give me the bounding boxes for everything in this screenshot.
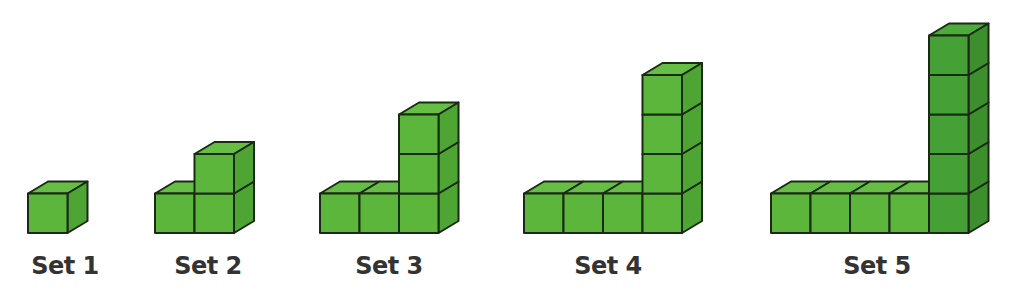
cube-front-face — [360, 194, 400, 234]
cube — [195, 142, 255, 194]
cube-front-face — [399, 115, 439, 155]
cube-front-face — [929, 36, 969, 76]
set-1-label: Set 1 — [31, 252, 99, 280]
set-2-label: Set 2 — [174, 252, 242, 280]
cube-front-face — [320, 194, 360, 234]
cube-front-face — [155, 194, 195, 234]
set-3-label: Set 3 — [355, 252, 423, 280]
set-4-label: Set 4 — [574, 252, 642, 280]
cube-front-face — [771, 194, 811, 234]
cube-front-face — [850, 194, 890, 234]
cube-front-face — [195, 154, 235, 194]
set-3-cubes — [320, 103, 459, 234]
set-1-cubes — [28, 182, 88, 234]
set-2-cubes — [155, 142, 254, 233]
cube-front-face — [195, 194, 235, 234]
cube-front-face — [28, 194, 68, 234]
cube-front-face — [399, 154, 439, 194]
cube-front-face — [643, 75, 683, 115]
cube-front-face — [929, 115, 969, 155]
cube-front-face — [811, 194, 851, 234]
cube-front-face — [564, 194, 604, 234]
cube — [929, 24, 989, 76]
cube — [399, 103, 459, 155]
cube — [643, 63, 703, 115]
cube-front-face — [890, 194, 930, 234]
cube-front-face — [524, 194, 564, 234]
cube-front-face — [643, 115, 683, 155]
set-5-cubes — [771, 24, 989, 234]
cube-front-face — [929, 75, 969, 115]
cube-front-face — [399, 194, 439, 234]
cube-front-face — [929, 194, 969, 234]
set-4-cubes — [524, 63, 702, 233]
cube-front-face — [603, 194, 643, 234]
cube-front-face — [643, 194, 683, 234]
cube-front-face — [929, 154, 969, 194]
cube — [28, 182, 88, 234]
cube-front-face — [643, 154, 683, 194]
set-5-label: Set 5 — [843, 252, 911, 280]
